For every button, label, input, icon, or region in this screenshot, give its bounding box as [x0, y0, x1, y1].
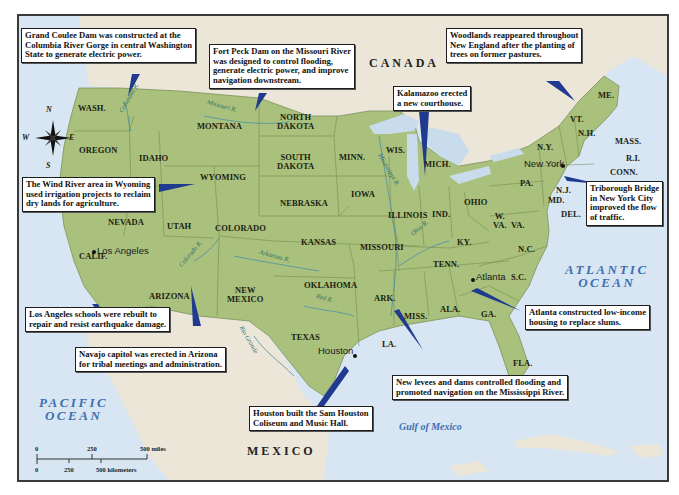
state-label-miss: MISS. — [404, 312, 427, 321]
callout-grand-coulee: Grand Coulee Dam was constructed at the … — [21, 28, 196, 63]
callout-kalamazoo: Kalamazoo erected a new courthouse. — [393, 86, 471, 111]
callout-triborough: Triborough Bridge in New York City impro… — [586, 181, 663, 226]
state-label-utah: UTAH — [167, 222, 191, 231]
state-label-mass: MASS. — [615, 137, 641, 146]
compass-n: N — [46, 106, 52, 114]
state-label-ala: ALA. — [440, 305, 460, 314]
scale-bar: 0 250 500 miles 0 250 500 kilometers — [35, 442, 175, 478]
callout-houston: Houston built the Sam Houston Coliseum a… — [249, 406, 373, 431]
state-label-wyoming: WYOMING — [200, 173, 246, 182]
gulf-label: Gulf of Mexico — [399, 421, 462, 432]
country-label-canada: CANADA — [369, 56, 439, 71]
state-label-nevada: NEVADA — [108, 218, 144, 227]
state-label-oregon: OREGON — [79, 146, 117, 155]
state-label-illinois: ILLINOIS — [388, 211, 428, 220]
state-label-ga: GA. — [481, 310, 496, 319]
state-label-north-dakota: NORTH DAKOTA — [277, 113, 314, 130]
callout-los-angeles: Los Angeles schools were rebuilt to repa… — [25, 307, 170, 332]
state-label-wash: WASH. — [78, 104, 106, 113]
state-label-missouri: MISSOURI — [360, 243, 404, 252]
state-label-arizona: ARIZONA — [149, 292, 190, 301]
state-label-idaho: IDAHO — [139, 154, 168, 163]
state-label-va: VA. — [511, 221, 525, 230]
state-label-vt: VT. — [570, 115, 584, 124]
state-label-new-mexico: NEW MEXICO — [227, 286, 264, 303]
state-label-w-va: W. VA. — [493, 212, 507, 229]
state-label-del: DEL. — [561, 210, 581, 219]
state-label-ind: IND. — [432, 210, 450, 219]
state-label-md: MD. — [548, 196, 565, 205]
state-label-sc: S.C. — [511, 273, 527, 282]
state-label-nj: N.J. — [556, 186, 571, 195]
city-label-los-angeles: Los Angeles — [97, 245, 149, 256]
compass-s: S — [46, 162, 50, 170]
state-label-minn: MINN. — [339, 153, 365, 162]
state-label-nh: N.H. — [578, 129, 595, 138]
state-label-colorado: COLORADO — [215, 224, 266, 233]
state-label-pa: PA. — [520, 179, 533, 188]
state-label-ark: ARK. — [374, 294, 395, 303]
state-label-ky: KY. — [457, 238, 471, 247]
state-label-ri: R.I. — [626, 154, 640, 163]
state-label-iowa: IOWA — [351, 190, 375, 199]
state-label-ny: N.Y. — [537, 143, 553, 152]
city-label-new-york: New York — [524, 158, 564, 169]
state-label-mich: MICH. — [424, 160, 451, 169]
state-label-wis: WIS. — [386, 146, 405, 155]
state-label-tenn: TENN. — [433, 260, 459, 269]
city-label-houston: Houston — [318, 345, 353, 356]
city-dot-atlanta — [471, 278, 475, 282]
compass-w: W — [22, 134, 29, 142]
state-label-fla: FLA. — [513, 359, 533, 368]
callout-atlanta: Atlanta constructed low-income housing t… — [525, 305, 650, 330]
state-label-south-dakota: SOUTH DAKOTA — [277, 153, 314, 170]
callout-new-england: Woodlands reappeared throughout New Engl… — [446, 28, 582, 63]
callout-wind-river: The Wind River area in Wyoming used irri… — [22, 177, 155, 212]
state-label-montana: MONTANA — [197, 122, 242, 131]
ocean-label-atlantic: ATLANTIC OCEAN — [565, 263, 649, 289]
state-label-conn: CONN. — [610, 168, 638, 177]
city-label-atlanta: Atlanta — [476, 271, 506, 282]
callout-fort-peck: Fort Peck Dam on the Missouri River was … — [209, 44, 355, 89]
state-label-la: LA. — [382, 340, 396, 349]
map-frame: N S W E CANADA MEXICO PACIFIC OCEAN ATLA… — [17, 14, 669, 482]
state-label-nebraska: NEBRASKA — [280, 199, 328, 208]
state-label-oklahoma: OKLAHOMA — [304, 281, 357, 290]
state-label-me: ME. — [598, 91, 614, 100]
state-label-ohio: OHIO — [464, 198, 488, 207]
callout-mississippi: New levees and dams controlled flooding … — [392, 375, 568, 400]
state-label-texas: TEXAS — [291, 333, 320, 342]
city-dot-houston — [353, 354, 357, 358]
callout-navajo: Navajo capitol was erected in Arizona fo… — [75, 347, 226, 372]
state-label-nc: N.C. — [518, 245, 535, 254]
country-label-mexico: MEXICO — [247, 444, 316, 459]
city-dot-los-angeles — [92, 250, 96, 254]
ocean-label-pacific: PACIFIC OCEAN — [39, 396, 108, 422]
compass-e: E — [69, 134, 74, 142]
state-label-kansas: KANSAS — [301, 238, 336, 247]
